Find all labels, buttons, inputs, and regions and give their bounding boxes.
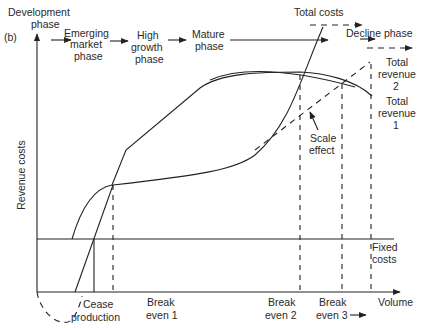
break-even-2-label-line2: even 2 bbox=[265, 309, 297, 321]
total-revenue-1-curve bbox=[210, 72, 355, 87]
phase-high-growth-line3: phase bbox=[135, 53, 164, 65]
panel-label: (b) bbox=[4, 31, 17, 43]
phase-emerging-line2: market bbox=[70, 38, 102, 50]
phase-mature-line2: phase bbox=[195, 40, 224, 52]
phase-high-growth-line2: growth bbox=[131, 41, 163, 53]
break-even-1-label-line2: even 1 bbox=[146, 309, 178, 321]
break-even-2-label-line1: Break bbox=[268, 296, 296, 308]
phase-development-line1: Development bbox=[8, 6, 70, 18]
total-costs-curve bbox=[75, 27, 323, 292]
total-revenue-1-line2: revenue bbox=[378, 107, 416, 119]
scale-effect-arrow bbox=[310, 112, 318, 130]
cease-production-label-line1: Cease bbox=[83, 298, 114, 310]
break-even-3-label-line1: Break bbox=[319, 296, 347, 308]
break-even-1-label-line1: Break bbox=[147, 296, 175, 308]
fixed-costs-label-line1: Fixed bbox=[372, 241, 398, 253]
product-lifecycle-breakeven-diagram: (b) Revenue costs Development phase Emer… bbox=[0, 0, 425, 328]
phase-development-line2: phase bbox=[31, 18, 60, 30]
y-axis-label: Revenue costs bbox=[15, 140, 27, 209]
total-revenue-1-line3: 1 bbox=[393, 119, 399, 131]
x-axis-label: Volume bbox=[378, 296, 413, 308]
revenue-rising-segment bbox=[112, 72, 372, 185]
phase-high-growth-line1: High bbox=[137, 29, 159, 41]
fixed-costs-label-line2: costs bbox=[372, 253, 397, 265]
revenue-curve-lower bbox=[72, 185, 112, 239]
scale-effect-label-line1: Scale bbox=[310, 132, 336, 144]
cease-production-label-line2: production bbox=[71, 311, 120, 323]
phase-mature-line1: Mature bbox=[192, 28, 225, 40]
total-revenue-2-line3: 2 bbox=[393, 80, 399, 92]
break-even-3-label-line2: even 3 bbox=[316, 309, 348, 321]
total-revenue-1-line1: Total bbox=[386, 95, 408, 107]
total-costs-label: Total costs bbox=[294, 6, 344, 18]
total-revenue-2-line1: Total bbox=[386, 56, 408, 68]
phase-emerging-line3: phase bbox=[74, 50, 103, 62]
scale-effect-label-line2: effect bbox=[309, 144, 335, 156]
total-revenue-2-line2: revenue bbox=[378, 68, 416, 80]
phase-decline-label: Decline phase bbox=[346, 27, 413, 39]
